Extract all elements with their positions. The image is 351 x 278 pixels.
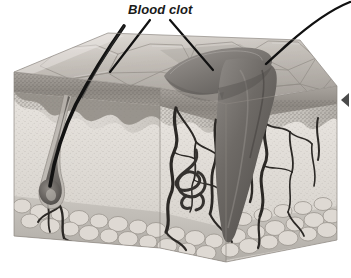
right-edge-arrowhead-icon (341, 93, 349, 107)
figure-canvas: Blood clot (0, 0, 351, 278)
skin-cross-section-illustration (0, 0, 351, 278)
label-blood-clot: Blood clot (128, 2, 193, 17)
